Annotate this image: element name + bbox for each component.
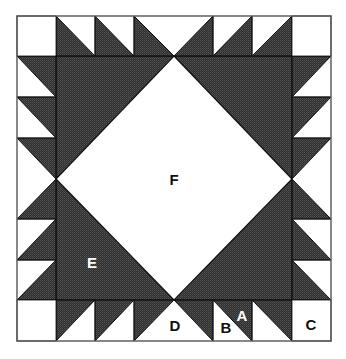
label-A: A — [237, 307, 248, 324]
corner-square-top-left — [17, 16, 56, 56]
label-C: C — [306, 316, 317, 333]
quilt-block-diagram: F E D B A C — [0, 0, 346, 359]
label-D: D — [170, 317, 181, 334]
corner-square-bottom-left — [17, 300, 56, 341]
corner-square-top-right — [292, 16, 331, 56]
label-E: E — [87, 254, 97, 271]
label-F: F — [169, 171, 178, 188]
label-B: B — [221, 319, 232, 336]
